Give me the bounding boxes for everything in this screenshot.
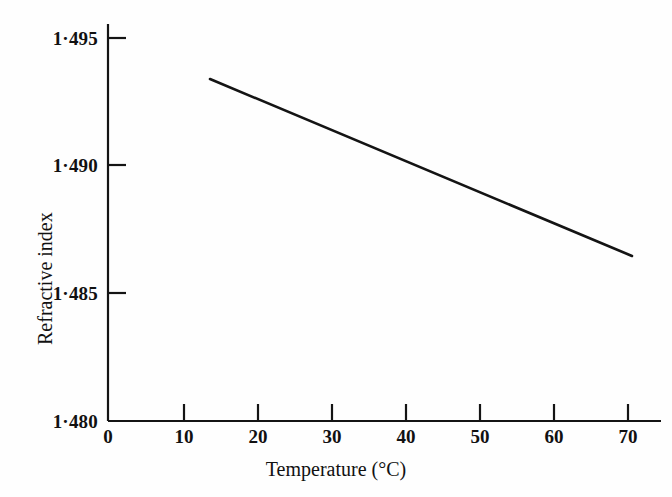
y-axis-ticks xyxy=(108,38,126,293)
x-axis-title: Temperature (°C) xyxy=(0,458,672,481)
x-tick-label-20: 20 xyxy=(228,426,288,448)
x-tick-label-50: 50 xyxy=(450,426,510,448)
x-tick-label-30: 30 xyxy=(302,426,362,448)
y-tick-label-1490: 1·490 xyxy=(14,155,98,177)
y-axis-title: Refractive index xyxy=(34,212,57,345)
x-tick-label-70: 70 xyxy=(598,426,658,448)
x-axis-ticks xyxy=(184,404,628,421)
x-tick-label-60: 60 xyxy=(524,426,584,448)
refractive-index-chart: 1·495 1·490 1·485 1·480 0 10 20 30 40 50… xyxy=(0,0,672,497)
x-tick-label-40: 40 xyxy=(376,426,436,448)
x-tick-label-10: 10 xyxy=(154,426,214,448)
plot-area xyxy=(0,0,672,497)
x-tick-label-0: 0 xyxy=(78,426,138,448)
data-series-line xyxy=(210,79,632,256)
y-tick-label-1495: 1·495 xyxy=(14,28,98,50)
